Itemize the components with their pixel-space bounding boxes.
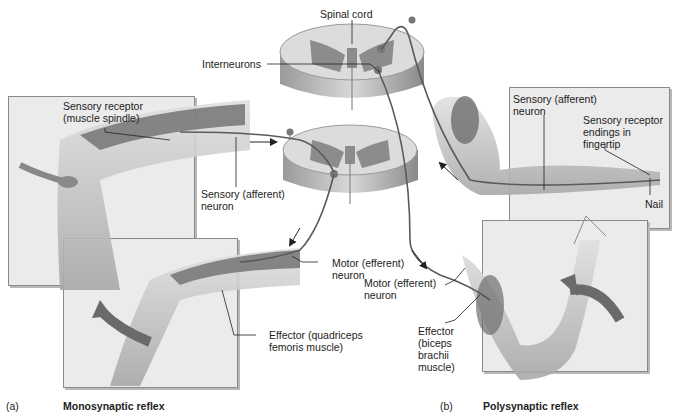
reflex-illustration xyxy=(0,0,683,416)
label-sensory-receptor-fingertip: Sensory receptor endings in fingertip xyxy=(583,114,663,150)
leg-response-illustration xyxy=(92,248,300,386)
label-sensory-receptor-muscle-spindle: Sensory receptor (muscle spindle) xyxy=(63,100,143,124)
caption-polysynaptic: Polysynaptic reflex xyxy=(483,400,579,412)
arm-response-illustration xyxy=(462,216,620,380)
label-interneurons: Interneurons xyxy=(202,58,261,70)
label-effector-biceps: Effector (biceps brachii muscle) xyxy=(418,325,455,373)
label-motor-neuron-b: Motor (efferent) neuron xyxy=(364,277,436,301)
label-sensory-neuron-a: Sensory (afferent) neuron xyxy=(201,188,285,212)
label-effector-quadriceps: Effector (quadriceps femoris muscle) xyxy=(269,329,363,353)
label-spinal-cord: Spinal cord xyxy=(320,8,373,20)
caption-monosynaptic: Monosynaptic reflex xyxy=(63,400,165,412)
efferent-arrow-b-icon xyxy=(412,250,426,268)
caption-letter-b: (b) xyxy=(440,400,453,412)
spinal-cord-lower xyxy=(283,125,418,204)
label-nail: Nail xyxy=(645,198,663,210)
efferent-arrow-icon xyxy=(290,228,300,245)
caption-letter-a: (a) xyxy=(6,400,19,412)
